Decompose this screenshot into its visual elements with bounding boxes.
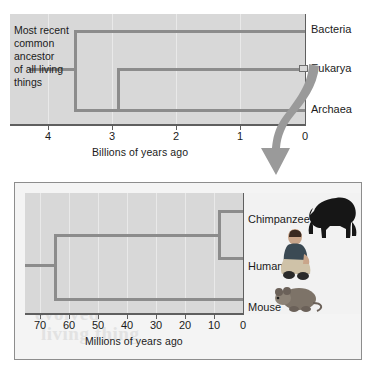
bottom-x-axis-line: [25, 313, 244, 315]
human-illustration: [276, 229, 318, 281]
gridline-30mya: [156, 193, 157, 313]
ticklabel-0-mya: 0: [231, 319, 255, 331]
taxon-label-chimpanzee: Chimpanzee: [248, 213, 310, 225]
ticklabel-70: 70: [28, 319, 52, 331]
ticklabel-60: 60: [57, 319, 81, 331]
annotation-line-1: Most recent: [14, 24, 92, 37]
top-axis-title: Billions of years ago: [92, 146, 188, 158]
branch-bacteria: [74, 30, 305, 33]
branch-split-chimp-human-vertical: [218, 210, 221, 260]
bottom-plot-area: [25, 193, 243, 313]
ticklabel-20: 20: [173, 319, 197, 331]
gridline-70mya: [40, 193, 41, 313]
mouse-illustration: [272, 281, 326, 313]
gridline-20mya: [185, 193, 186, 313]
gridline-50mya: [98, 193, 99, 313]
branch-split-eukarya-archaea-vertical: [117, 68, 120, 112]
annotation-line-5: things: [14, 76, 92, 89]
gridline-60mya: [69, 193, 70, 313]
species-illustration-column: Chimpanzee Human Mouse: [244, 193, 361, 314]
connector-arrow-icon: [245, 62, 335, 178]
figure-root: 4 3 2 1 0 Billions of years ago Most rec…: [0, 0, 370, 366]
branch-chimpanzee: [218, 210, 243, 213]
ticklabel-2: 2: [166, 130, 186, 142]
gridline-10mya: [214, 193, 215, 313]
branch-primate-ancestor: [54, 234, 221, 237]
ticklabel-30: 30: [144, 319, 168, 331]
annotation-line-2: common: [14, 37, 92, 50]
ticklabel-3: 3: [102, 130, 122, 142]
branch-mouse: [54, 298, 243, 301]
branch-archaea-eukarya-ancestor: [74, 109, 120, 112]
bottom-panel-primate-tree: emerged evolved living thing: [14, 182, 362, 360]
most-recent-common-ancestor-annotation: Most recent common ancestor of all livin…: [14, 24, 92, 89]
annotation-line-4: of all living: [14, 63, 92, 76]
ticklabel-40: 40: [115, 319, 139, 331]
ticklabel-50: 50: [86, 319, 110, 331]
annotation-line-3: ancestor: [14, 50, 92, 63]
taxon-label-bacteria: Bacteria: [311, 23, 351, 35]
ticklabel-4: 4: [38, 130, 58, 142]
branch-split-mouse-primates-vertical: [54, 234, 57, 301]
branch-root-stub-bottom: [25, 264, 56, 267]
ticklabel-10: 10: [202, 319, 226, 331]
branch-human: [218, 257, 243, 260]
bottom-axis-title: Millions of years ago: [85, 335, 183, 347]
gridline-40mya: [127, 193, 128, 313]
